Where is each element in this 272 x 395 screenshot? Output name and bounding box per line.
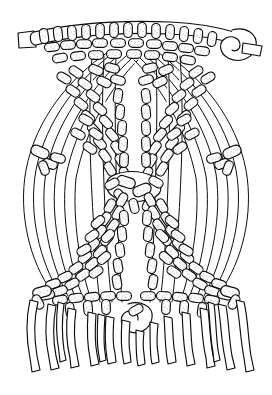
fringe-cord — [136, 330, 145, 366]
mounting-cord-right-tail — [242, 43, 262, 56]
fringe-cord — [121, 320, 131, 364]
macrame-illustration — [0, 0, 272, 395]
macrame-line-art-canvas — [0, 0, 272, 395]
